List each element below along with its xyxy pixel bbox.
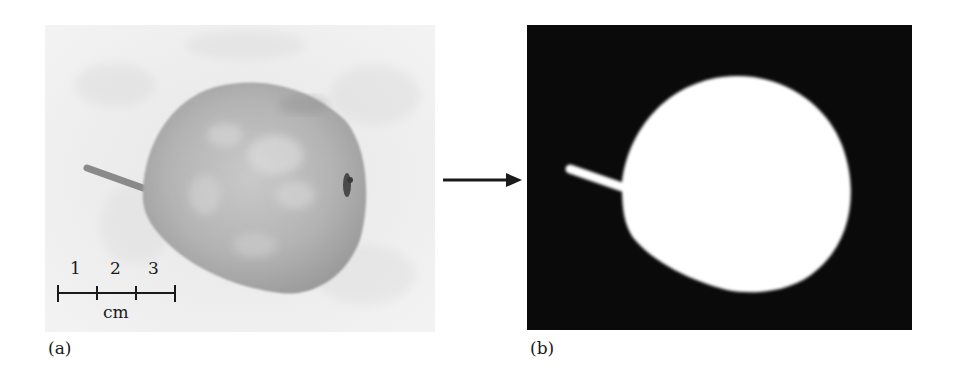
- panel-label-a: (a): [48, 338, 71, 358]
- scale-tick-1: 1: [70, 258, 81, 278]
- photo-panel: 1 2 3 cm: [45, 25, 435, 332]
- scale-tick-3: 3: [148, 258, 159, 278]
- right-arrow-icon: [442, 170, 522, 190]
- pear-photo: [45, 25, 435, 332]
- mask-panel: [527, 25, 912, 330]
- pear-mask: [527, 25, 912, 330]
- scale-tick-2: 2: [110, 258, 121, 278]
- scale-unit: cm: [103, 302, 129, 322]
- panel-label-b: (b): [530, 338, 554, 358]
